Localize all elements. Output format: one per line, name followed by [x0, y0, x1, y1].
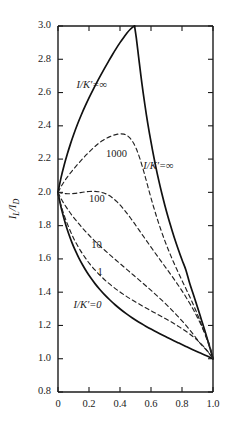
ann-1: 1	[98, 266, 103, 277]
ann-10: 10	[91, 239, 102, 250]
ann-1000: 1000	[106, 148, 127, 159]
x-tick-label: 0.8	[175, 398, 188, 409]
x-tick-labels: 00.20.40.60.81.0	[55, 398, 219, 409]
series-curve-i-k-upper-branch	[58, 26, 135, 192]
y-tick-labels: 0.81.01.21.41.61.82.02.22.42.62.83.0	[38, 19, 52, 396]
ann-100: 100	[89, 193, 105, 204]
x-tick-label: 0.4	[113, 398, 127, 409]
y-tick-label: 2.0	[38, 186, 51, 197]
ann-zero: I/K′=0	[73, 299, 103, 310]
ann-inf-right: I/K′=∞	[142, 160, 173, 171]
y-tick-label: 2.8	[38, 53, 51, 64]
figure-container: 0.81.01.21.41.61.82.02.22.42.62.83.0 00.…	[0, 0, 238, 424]
y-title-sub-D: D	[12, 198, 21, 205]
x-tick-label: 1.0	[206, 398, 219, 409]
x-tick-group	[58, 387, 213, 392]
y-tick-label: 2.6	[38, 86, 51, 97]
y-tick-label: 2.4	[38, 119, 52, 130]
ann-inf-upper: I/K′=∞	[76, 79, 107, 90]
y-tick-label: 1.6	[38, 252, 51, 263]
series-curve-1000	[58, 134, 213, 359]
curve-annotations: I/K′=∞1000I/K′=∞100101I/K′=0	[73, 79, 174, 310]
x-tick-label: 0.6	[144, 398, 157, 409]
y-axis-title-text: IL/ID	[6, 198, 21, 220]
x-tick-label: 0	[55, 398, 60, 409]
y-tick-group-right	[208, 26, 213, 392]
x-tick-label: 0.2	[82, 398, 95, 409]
y-tick-label: 2.2	[38, 152, 51, 163]
y-tick-label: 3.0	[38, 19, 51, 30]
chart-plot: 0.81.01.21.41.61.82.02.22.42.62.83.0 00.…	[0, 0, 238, 424]
y-axis-title: IL/ID	[6, 198, 21, 220]
y-tick-label: 0.8	[38, 385, 51, 396]
y-tick-label: 1.2	[38, 319, 51, 330]
y-tick-label: 1.8	[38, 219, 51, 230]
y-tick-label: 1.4	[38, 286, 52, 297]
y-tick-label: 1.0	[38, 352, 51, 363]
